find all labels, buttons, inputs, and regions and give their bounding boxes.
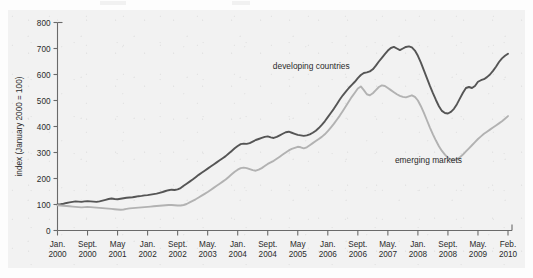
x-tick-month: Sept. bbox=[348, 240, 367, 249]
x-tick-year: 2007 bbox=[379, 250, 398, 259]
y-axis-title: index (January 2000 = 100) bbox=[15, 76, 24, 176]
x-tick-month: Feb. bbox=[500, 240, 516, 249]
x-tick-month: May bbox=[110, 240, 126, 249]
x-tick-year: 2010 bbox=[499, 250, 518, 259]
y-axis-title-label: index (January 2000 = 100) bbox=[15, 76, 24, 176]
y-axis: 0100200300400500600700800 bbox=[37, 19, 63, 236]
y-tick-label: 100 bbox=[37, 201, 51, 210]
x-tick-month: May. bbox=[199, 240, 216, 249]
line-chart: 0100200300400500600700800 Jan.2000Sept.2… bbox=[0, 0, 533, 278]
x-tick-year: 2008 bbox=[409, 250, 428, 259]
x-tick-month: Sept. bbox=[438, 240, 457, 249]
x-tick-month: Sept. bbox=[168, 240, 187, 249]
x-tick-year: 2002 bbox=[138, 250, 157, 259]
x-tick-year: 2000 bbox=[78, 250, 97, 259]
x-tick-year: 2009 bbox=[469, 250, 488, 259]
x-tick-year: 2004 bbox=[229, 250, 248, 259]
data-series-group bbox=[58, 46, 509, 209]
y-tick-label: 400 bbox=[37, 123, 51, 132]
y-tick-label: 500 bbox=[37, 97, 51, 106]
x-tick-year: 2004 bbox=[259, 250, 278, 259]
x-tick-year: 2008 bbox=[439, 250, 458, 259]
y-tick-label: 0 bbox=[46, 227, 51, 236]
x-tick-month: May bbox=[290, 240, 306, 249]
x-tick-year: 2006 bbox=[319, 250, 338, 259]
x-axis: Jan.2000Sept.2000May2001Jan.2002Sept.200… bbox=[48, 225, 517, 259]
x-tick-month: May. bbox=[379, 240, 396, 249]
x-tick-month: Sept. bbox=[258, 240, 277, 249]
series-label: emerging markets bbox=[395, 155, 462, 165]
x-tick-month: Jan. bbox=[320, 240, 335, 249]
x-tick-year: 2000 bbox=[48, 250, 67, 259]
chart-figure: 0100200300400500600700800 Jan.2000Sept.2… bbox=[0, 0, 533, 278]
x-tick-month: Sept. bbox=[78, 240, 97, 249]
x-tick-month: May. bbox=[469, 240, 486, 249]
y-tick-label: 800 bbox=[37, 19, 51, 28]
series-annotations: developing countriesemerging markets bbox=[273, 61, 462, 166]
series-label: developing countries bbox=[273, 61, 350, 71]
x-tick-month: Jan. bbox=[50, 240, 65, 249]
x-tick-month: Jan. bbox=[410, 240, 425, 249]
x-tick-year: 2006 bbox=[349, 250, 368, 259]
y-tick-label: 300 bbox=[37, 149, 51, 158]
y-tick-label: 200 bbox=[37, 175, 51, 184]
y-tick-label: 700 bbox=[37, 45, 51, 54]
x-tick-year: 2002 bbox=[169, 250, 188, 259]
x-tick-year: 2005 bbox=[289, 250, 308, 259]
x-tick-year: 2003 bbox=[199, 250, 218, 259]
y-tick-label: 600 bbox=[37, 71, 51, 80]
x-tick-year: 2001 bbox=[108, 250, 127, 259]
x-tick-month: Jan. bbox=[140, 240, 155, 249]
series-line bbox=[58, 85, 509, 209]
x-tick-month: Jan. bbox=[230, 240, 245, 249]
